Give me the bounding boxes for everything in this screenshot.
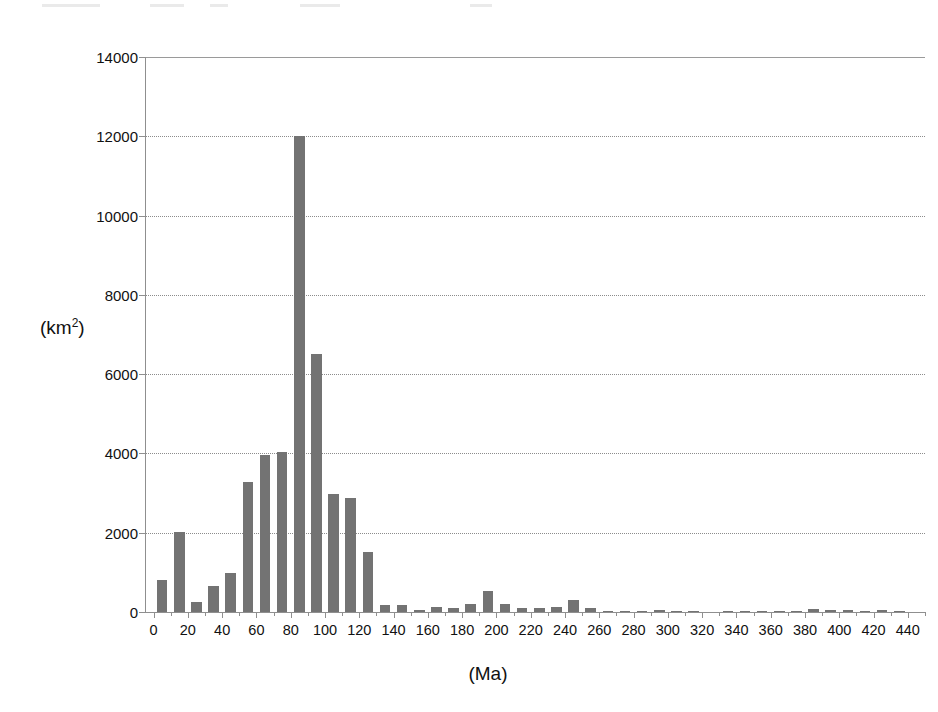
x-tick-mark	[154, 612, 155, 618]
y-tick-label: 8000	[88, 286, 138, 303]
x-tick-label: 180	[450, 622, 474, 638]
y-tick-label: 6000	[88, 366, 138, 383]
bar	[808, 609, 819, 612]
x-tick-mark	[788, 612, 789, 616]
bar	[534, 608, 545, 612]
x-tick-mark	[445, 612, 446, 616]
bar	[774, 611, 785, 613]
x-tick-mark	[582, 612, 583, 616]
x-tick-label: 0	[150, 622, 158, 638]
x-tick-mark	[188, 612, 189, 618]
x-tick-mark	[771, 612, 772, 618]
x-tick-mark	[805, 612, 806, 618]
bar	[500, 604, 511, 612]
x-tick-label: 100	[313, 622, 337, 638]
x-tick-mark	[822, 612, 823, 616]
x-axis-title: (Ma)	[0, 663, 938, 685]
bar	[894, 611, 905, 613]
x-tick-label: 160	[416, 622, 440, 638]
bar	[740, 611, 751, 613]
x-tick-mark	[359, 612, 360, 618]
bar	[551, 607, 562, 612]
x-tick-mark	[616, 612, 617, 616]
bar	[157, 580, 168, 613]
bar	[877, 610, 888, 612]
x-tick-label: 120	[347, 622, 371, 638]
y-tick-label: 2000	[88, 524, 138, 541]
bar	[414, 610, 425, 612]
x-tick-mark	[411, 612, 412, 616]
y-tick-label: 12000	[88, 128, 138, 145]
x-tick-label: 220	[519, 622, 543, 638]
x-tick-mark	[479, 612, 480, 616]
x-tick-mark	[171, 612, 172, 616]
x-tick-label: 380	[793, 622, 817, 638]
x-tick-mark	[274, 612, 275, 616]
bar	[380, 605, 391, 612]
x-tick-mark	[736, 612, 737, 618]
x-tick-label: 340	[724, 622, 748, 638]
y-tick-mark	[139, 612, 145, 613]
x-tick-mark	[531, 612, 532, 618]
x-tick-mark	[548, 612, 549, 616]
x-tick-mark	[342, 612, 343, 616]
bar	[483, 591, 494, 612]
x-tick-mark	[428, 612, 429, 618]
x-tick-label: 280	[621, 622, 645, 638]
x-tick-mark	[496, 612, 497, 618]
bar	[345, 498, 356, 612]
bar	[465, 604, 476, 612]
x-tick-label: 300	[656, 622, 680, 638]
x-tick-label: 240	[553, 622, 577, 638]
bar	[723, 611, 734, 613]
bar	[191, 602, 202, 612]
x-tick-mark	[856, 612, 857, 616]
x-tick-mark	[325, 612, 326, 618]
x-tick-label: 440	[896, 622, 920, 638]
x-tick-mark	[925, 612, 926, 616]
bar	[311, 354, 322, 612]
bar	[174, 532, 185, 612]
x-tick-mark	[719, 612, 720, 616]
y-axis-title-text: (km	[40, 317, 72, 338]
x-tick-label: 20	[180, 622, 196, 638]
x-tick-mark	[702, 612, 703, 618]
x-axis-line	[145, 612, 926, 613]
x-tick-mark	[308, 612, 309, 616]
x-tick-mark	[685, 612, 686, 616]
bar	[517, 608, 528, 612]
x-tick-mark	[565, 612, 566, 618]
bar	[585, 608, 596, 612]
bar	[363, 552, 374, 612]
bar	[448, 608, 459, 612]
y-axis-title-close: )	[78, 317, 84, 338]
x-tick-mark	[634, 612, 635, 618]
x-tick-mark	[291, 612, 292, 618]
x-tick-mark	[462, 612, 463, 618]
x-tick-mark	[599, 612, 600, 618]
bar	[860, 611, 871, 613]
x-tick-label: 420	[861, 622, 885, 638]
bar-chart-figure: 02000400060008000100001200014000 0204060…	[0, 0, 938, 712]
bar	[208, 586, 219, 612]
x-tick-label: 360	[759, 622, 783, 638]
bars-group	[145, 57, 926, 612]
x-tick-mark	[651, 612, 652, 616]
x-tick-label: 80	[283, 622, 299, 638]
bar	[568, 600, 579, 612]
bar	[243, 482, 254, 612]
bar	[260, 455, 271, 612]
x-tick-mark	[754, 612, 755, 616]
bar	[620, 611, 631, 613]
x-tick-label: 60	[248, 622, 264, 638]
bar	[431, 607, 442, 612]
x-tick-mark	[908, 612, 909, 618]
bar	[791, 611, 802, 613]
y-tick-label: 0	[88, 604, 138, 621]
x-tick-mark	[839, 612, 840, 618]
x-tick-label: 400	[827, 622, 851, 638]
x-tick-label: 320	[690, 622, 714, 638]
bar	[294, 136, 305, 612]
bar	[328, 494, 339, 612]
x-tick-mark	[394, 612, 395, 618]
